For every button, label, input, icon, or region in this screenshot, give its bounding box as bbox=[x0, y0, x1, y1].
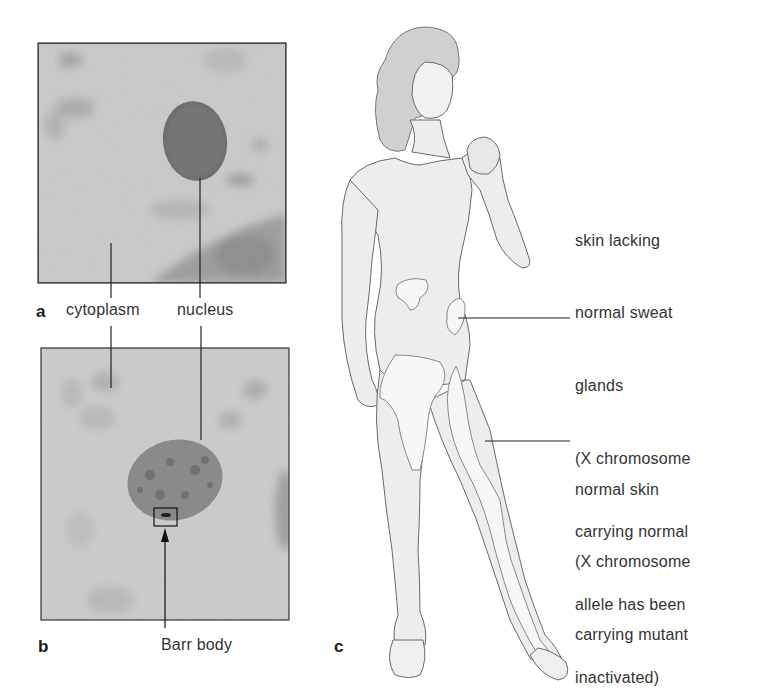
callout-line: skin lacking bbox=[575, 229, 691, 253]
micrograph-b bbox=[41, 348, 295, 620]
panel-letter-c: c bbox=[334, 637, 343, 657]
callout-line: (X chromosome bbox=[575, 550, 691, 574]
label-nucleus: nucleus bbox=[177, 301, 234, 319]
female-figure-illustration bbox=[342, 27, 568, 680]
label-cytoplasm: cytoplasm bbox=[66, 301, 140, 319]
label-barr-body: Barr body bbox=[161, 636, 232, 654]
callout-line: carrying mutant bbox=[575, 623, 691, 647]
callout-line: normal skin bbox=[575, 478, 691, 502]
micrograph-a bbox=[38, 43, 286, 283]
callout-normal-skin: normal skin (X chromosome carrying mutan… bbox=[575, 429, 691, 696]
panel-letter-b: b bbox=[38, 637, 48, 657]
callout-line: normal sweat bbox=[575, 301, 691, 325]
panel-letter-a: a bbox=[36, 302, 45, 322]
callout-line: glands bbox=[575, 374, 691, 398]
